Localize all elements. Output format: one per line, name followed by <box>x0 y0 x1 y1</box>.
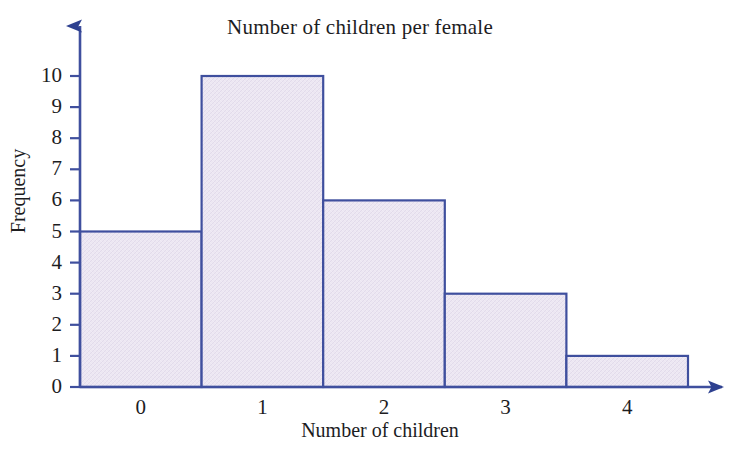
y-axis-tick-label: 8 <box>28 127 62 148</box>
y-axis-tick-label: 10 <box>28 65 62 86</box>
histogram-bar <box>566 356 688 387</box>
y-axis-tick-label: 7 <box>28 158 62 179</box>
y-axis-ticks <box>70 76 80 387</box>
y-axis-tick-label: 5 <box>28 221 62 242</box>
x-axis-tick-label: 2 <box>354 397 414 418</box>
histogram-bar <box>445 294 567 387</box>
histogram-chart: Number of children per female Frequency … <box>0 0 753 450</box>
x-axis-tick-label: 1 <box>232 397 292 418</box>
y-axis-tick-label: 9 <box>28 96 62 117</box>
y-axis-tick-label: 0 <box>28 376 62 397</box>
histogram-bar <box>80 232 202 388</box>
plot-area <box>0 0 753 450</box>
x-axis-tick-label: 0 <box>111 397 171 418</box>
y-axis-tick-label: 6 <box>28 189 62 210</box>
x-axis-tick-label: 3 <box>476 397 536 418</box>
y-axis-tick-label: 3 <box>28 283 62 304</box>
y-axis-tick-label: 4 <box>28 252 62 273</box>
histogram-bar <box>323 200 445 387</box>
y-axis-tick-label: 1 <box>28 345 62 366</box>
x-axis-tick-label: 4 <box>597 397 657 418</box>
bars-group <box>80 76 688 387</box>
y-axis-tick-label: 2 <box>28 314 62 335</box>
histogram-bar <box>202 76 324 387</box>
